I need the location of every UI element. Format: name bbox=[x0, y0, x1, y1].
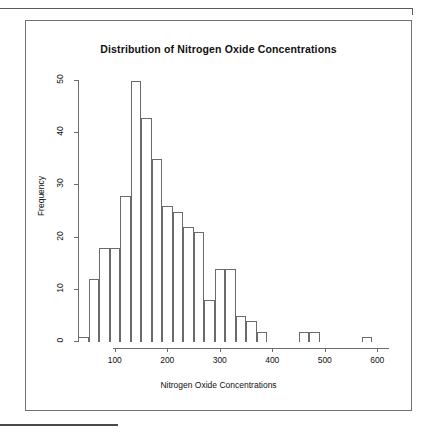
x-axis-tick bbox=[220, 348, 221, 352]
x-axis-tick-label: 500 bbox=[310, 355, 340, 365]
histogram-bar bbox=[131, 81, 142, 342]
x-axis-tick bbox=[272, 348, 273, 352]
histogram-bar bbox=[236, 316, 247, 342]
histogram-bar bbox=[183, 227, 194, 342]
x-axis-tick-label: 200 bbox=[152, 355, 182, 365]
histogram-bar bbox=[257, 332, 268, 342]
y-axis-title: Frequency bbox=[36, 156, 46, 236]
x-axis-tick-label: 100 bbox=[100, 355, 130, 365]
histogram-bar bbox=[204, 300, 215, 342]
histogram-bars bbox=[61, 61, 401, 342]
plot-area: 01020304050 100200300400500600 Frequency bbox=[26, 21, 411, 410]
histogram-bar bbox=[173, 212, 184, 343]
x-axis-tick bbox=[115, 348, 116, 352]
histogram-bar bbox=[215, 269, 226, 342]
histogram-bar bbox=[194, 232, 205, 342]
histogram-bar bbox=[120, 196, 131, 342]
x-axis-tick bbox=[167, 348, 168, 352]
histogram-bar bbox=[89, 279, 100, 342]
histogram-bar bbox=[162, 206, 173, 342]
figure-frame: Distribution of Nitrogen Oxide Concentra… bbox=[25, 20, 412, 411]
histogram-bar bbox=[141, 118, 152, 342]
histogram-bar bbox=[309, 332, 320, 342]
page-top-rule bbox=[0, 8, 412, 9]
x-axis-tick-label: 400 bbox=[257, 355, 287, 365]
histogram-bar bbox=[299, 332, 310, 342]
x-axis-line bbox=[113, 348, 389, 349]
histogram-bar bbox=[78, 337, 89, 342]
x-axis-tick bbox=[325, 348, 326, 352]
page-top-rule-tick bbox=[412, 8, 413, 15]
histogram-bar bbox=[152, 159, 163, 342]
x-axis-title: Nitrogen Oxide Concentrations bbox=[26, 380, 411, 390]
x-axis-tick bbox=[377, 348, 378, 352]
x-axis-tick-label: 600 bbox=[362, 355, 392, 365]
histogram-bar bbox=[246, 321, 257, 342]
page-bottom-rule bbox=[0, 424, 118, 426]
histogram-bar bbox=[110, 248, 121, 342]
histogram-bar bbox=[99, 248, 110, 342]
histogram-bar bbox=[225, 269, 236, 342]
x-axis-tick-label: 300 bbox=[205, 355, 235, 365]
histogram-bar bbox=[362, 337, 373, 342]
